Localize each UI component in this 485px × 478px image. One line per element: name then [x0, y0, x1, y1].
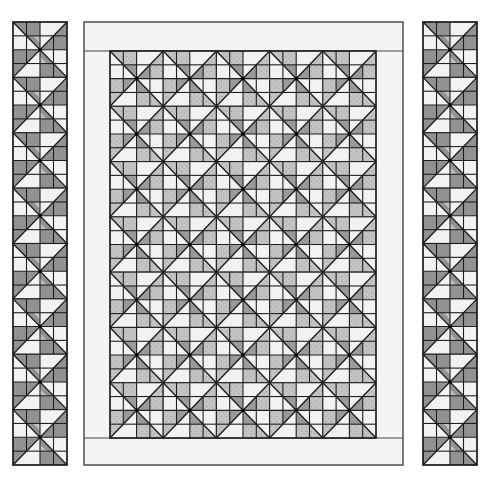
quilt-block	[323, 51, 376, 106]
quilt-block	[270, 106, 323, 161]
strip-block	[13, 299, 67, 354]
quilt-block	[163, 106, 216, 161]
quilt-block	[110, 383, 163, 438]
strip-block	[13, 410, 67, 465]
quilt-block	[270, 217, 323, 272]
quilt-block	[110, 327, 163, 382]
strip-block	[423, 22, 477, 77]
quilt-block	[270, 383, 323, 438]
right-border-strip	[423, 22, 477, 465]
strip-block	[13, 188, 67, 243]
quilt-block	[163, 217, 216, 272]
main-quilt	[84, 22, 403, 465]
quilt-block	[163, 327, 216, 382]
strip-block	[423, 299, 477, 354]
quilt-block	[323, 162, 376, 217]
quilt-block	[270, 327, 323, 382]
quilt-block	[216, 106, 269, 161]
strip-block	[13, 133, 67, 188]
strip-block	[13, 354, 67, 409]
quilt-block	[216, 327, 269, 382]
quilt-block	[163, 272, 216, 327]
quilt-block	[270, 51, 323, 106]
strip-block	[423, 354, 477, 409]
quilt-block	[323, 272, 376, 327]
strip-block	[423, 410, 477, 465]
quilt-block	[323, 106, 376, 161]
quilt-block	[216, 51, 269, 106]
quilt-block	[216, 217, 269, 272]
quilt-block	[163, 51, 216, 106]
quilt-block	[270, 162, 323, 217]
quilt-block	[163, 383, 216, 438]
quilt-block	[110, 272, 163, 327]
strip-block	[423, 188, 477, 243]
quilt-block	[323, 217, 376, 272]
quilt-diagram	[0, 0, 485, 478]
strip-block	[423, 133, 477, 188]
quilt-block	[216, 162, 269, 217]
strip-block	[13, 244, 67, 299]
quilt-block	[110, 51, 163, 106]
quilt-block	[110, 217, 163, 272]
quilt-block	[110, 162, 163, 217]
strip-block	[423, 244, 477, 299]
strip-block	[423, 77, 477, 132]
left-border-strip	[13, 22, 67, 465]
strip-block	[13, 22, 67, 77]
quilt-block	[270, 272, 323, 327]
quilt-block	[323, 383, 376, 438]
quilt-block	[216, 383, 269, 438]
quilt-block	[323, 327, 376, 382]
quilt-block	[110, 106, 163, 161]
quilt-block	[216, 272, 269, 327]
quilt-block	[163, 162, 216, 217]
strip-block	[13, 77, 67, 132]
